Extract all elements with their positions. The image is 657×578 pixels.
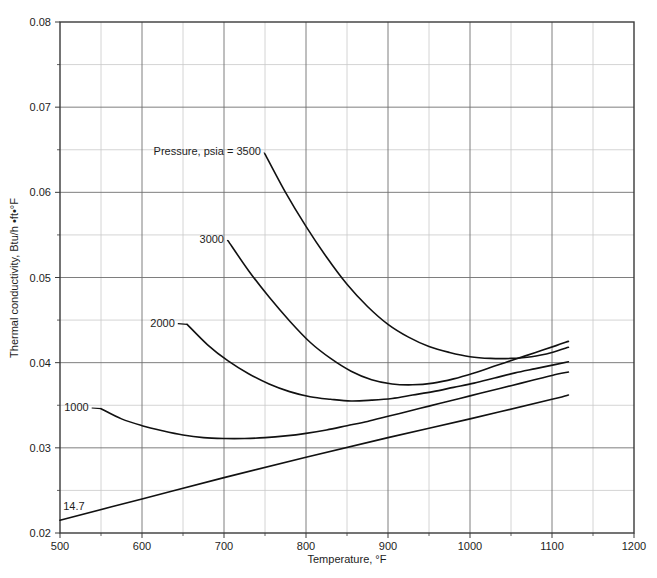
y-tick-labels: 0.020.030.040.050.060.070.08 — [30, 16, 51, 539]
y-axis-title: Thermal conductivity, Btu/h •ft•°F — [8, 198, 20, 358]
leader-line-3000 — [227, 240, 228, 241]
y-tick-label: 0.04 — [30, 357, 51, 369]
x-tick-label: 500 — [51, 540, 69, 552]
y-tick-label: 0.02 — [30, 527, 51, 539]
curve-leader-lines — [92, 152, 265, 408]
curve-labels: Pressure, psia = 350030002000100014.7 — [63, 145, 261, 511]
x-tick-label: 800 — [297, 540, 315, 552]
curve-14-7 — [60, 395, 568, 520]
leader-line-2000 — [178, 324, 187, 325]
y-tick-label: 0.08 — [30, 16, 51, 28]
figure-container: 500600700800900100011001200 0.020.030.04… — [0, 0, 657, 578]
x-axis-title: Temperature, °F — [308, 553, 387, 565]
x-tick-label: 1100 — [540, 540, 564, 552]
y-tick-label: 0.06 — [30, 186, 51, 198]
x-tick-labels: 500600700800900100011001200 — [51, 540, 646, 552]
x-tick-label: 600 — [133, 540, 151, 552]
y-tick-label: 0.03 — [30, 442, 51, 454]
leader-line-1000 — [92, 408, 101, 409]
x-tick-label: 1000 — [458, 540, 482, 552]
x-tick-label: 700 — [215, 540, 233, 552]
curve-label-2000: 2000 — [150, 317, 174, 329]
curve-label-1000: 1000 — [64, 401, 88, 413]
data-curves — [60, 154, 568, 520]
thermal-conductivity-chart: 500600700800900100011001200 0.020.030.04… — [0, 0, 657, 578]
curve-3000 — [228, 241, 568, 385]
curve-label-14-7: 14.7 — [63, 500, 84, 512]
curve-label-3500: Pressure, psia = 3500 — [154, 145, 261, 157]
x-tick-label: 900 — [379, 540, 397, 552]
y-tick-label: 0.07 — [30, 101, 51, 113]
x-tick-label: 1200 — [622, 540, 646, 552]
curve-3500 — [265, 154, 568, 359]
y-tick-label: 0.05 — [30, 272, 51, 284]
curve-label-3000: 3000 — [200, 233, 224, 245]
